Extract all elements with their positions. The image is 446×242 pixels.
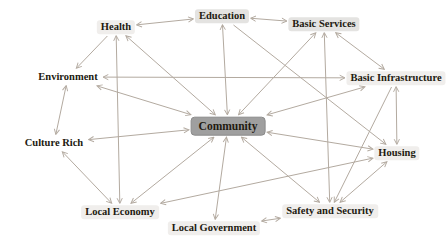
edge-community--environment xyxy=(97,86,190,115)
node-local-economy: Local Economy xyxy=(81,205,159,219)
edge-basic-services--safety-and-security xyxy=(324,33,329,202)
network-diagram: HealthEducationBasic ServicesEnvironment… xyxy=(0,0,446,242)
edge-community--health xyxy=(126,36,215,115)
edge-education--basic-services xyxy=(251,18,287,21)
node-environment: Environment xyxy=(34,70,101,84)
edge-basic-services--basic-infrastructure xyxy=(336,33,384,69)
node-health: Health xyxy=(97,20,135,34)
edge-community--housing xyxy=(268,132,373,149)
node-housing: Housing xyxy=(374,146,419,160)
node-local-government: Local Government xyxy=(168,221,260,235)
edge-community--education xyxy=(222,25,227,115)
node-basic-infrastructure: Basic Infrastructure xyxy=(346,71,445,85)
edge-community--culture-rich xyxy=(89,130,189,140)
edge-environment--basic-infrastructure xyxy=(104,77,345,78)
edge-community--safety-and-security xyxy=(242,138,319,203)
node-culture-rich: Culture Rich xyxy=(21,136,87,150)
edge-health--environment xyxy=(77,36,108,68)
edge-community--basic-infrastructure xyxy=(268,87,365,115)
edge-culture-rich--local-economy xyxy=(63,152,112,203)
node-safety-and-security: Safety and Security xyxy=(282,204,378,218)
node-community: Community xyxy=(191,117,266,136)
edge-basic-infrastructure--housing xyxy=(396,87,397,144)
edge-local-economy--housing xyxy=(161,158,373,203)
edge-local-government--safety-and-security xyxy=(262,218,280,221)
edge-safety-and-security--housing xyxy=(340,162,386,202)
edge-health--local-economy xyxy=(116,36,120,203)
edge-health--education xyxy=(137,19,193,25)
node-education: Education xyxy=(195,9,249,23)
edge-community--local-government xyxy=(215,138,226,220)
node-basic-services: Basic Services xyxy=(288,17,359,31)
edge-environment--culture-rich xyxy=(56,86,66,134)
edge-community--basic-services xyxy=(239,33,316,115)
edge-community--local-economy xyxy=(131,138,213,204)
